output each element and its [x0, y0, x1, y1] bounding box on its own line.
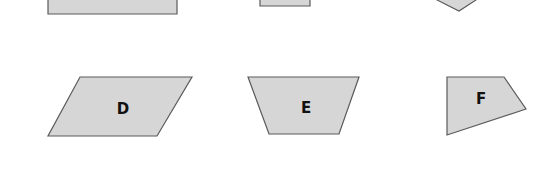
- shape-d: D: [48, 77, 192, 136]
- top-left-rectangle: [48, 0, 177, 14]
- shape-e: E: [248, 77, 359, 134]
- quadrilateral-f: [447, 77, 526, 135]
- label-d: D: [117, 100, 129, 118]
- label-e: E: [301, 99, 311, 117]
- top-right-pentagon: [437, 0, 476, 11]
- shapes-diagram: D E F: [0, 0, 551, 169]
- label-f: F: [476, 90, 486, 108]
- shape-f: F: [447, 77, 526, 135]
- top-middle-rectangle: [260, 0, 310, 6]
